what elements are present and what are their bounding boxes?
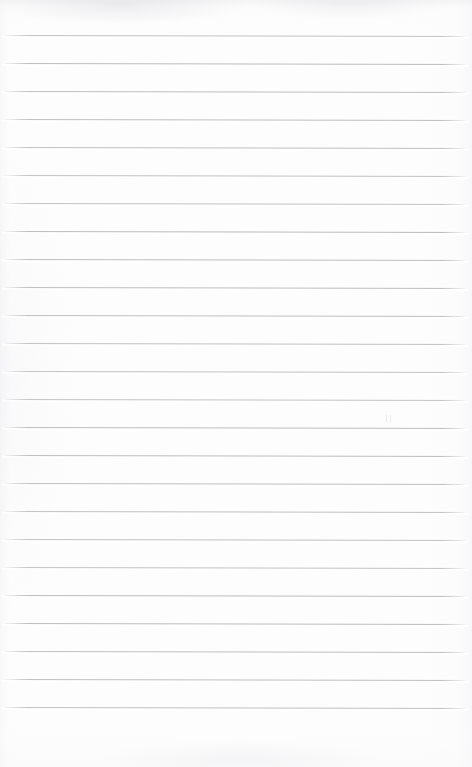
ruled-line	[2, 679, 468, 681]
ruled-line	[2, 63, 468, 65]
ruled-line	[2, 595, 468, 597]
ruled-line	[2, 119, 468, 121]
ruled-line	[2, 483, 468, 485]
ruled-line	[2, 399, 468, 401]
ruled-lines-group	[0, 0, 472, 767]
ruled-line	[2, 455, 468, 457]
ruled-line	[2, 651, 468, 653]
ruled-line	[2, 567, 468, 569]
ruled-line	[2, 175, 468, 177]
ruled-line	[2, 147, 468, 149]
ruled-line	[2, 707, 468, 709]
ruled-line	[2, 259, 468, 261]
ruled-line	[2, 203, 468, 205]
ruled-line	[2, 91, 468, 93]
ruled-line	[2, 343, 468, 345]
scanned-page	[0, 0, 472, 767]
ruled-line	[2, 539, 468, 541]
ruled-line	[2, 427, 468, 429]
ruled-line	[2, 623, 468, 625]
ruled-line	[2, 287, 468, 289]
ruled-line	[2, 315, 468, 317]
ruled-line	[2, 231, 468, 233]
ruled-line	[2, 35, 468, 37]
ruled-line	[2, 511, 468, 513]
ruled-line	[2, 371, 468, 373]
